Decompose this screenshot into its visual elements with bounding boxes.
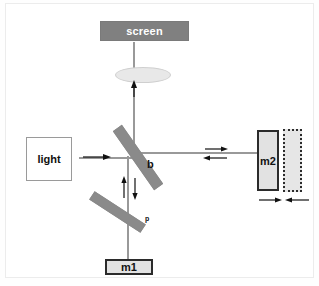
light-source-label: light — [37, 153, 60, 165]
arrow-m2-displacement-right-icon — [284, 195, 310, 205]
mirror-m2-shifted-box — [283, 129, 302, 192]
arrow-m1-to-splitter-icon — [119, 175, 129, 199]
lens-element[interactable] — [115, 67, 171, 83]
mirror-m2-label: m2 — [260, 155, 276, 167]
beam-splitter-to-m1 — [127, 156, 129, 260]
arrow-m2-to-splitter-icon — [202, 154, 228, 164]
arrow-source-to-splitter-icon — [81, 150, 113, 164]
mirror-m1-box[interactable]: m1 — [105, 259, 153, 275]
light-source-box[interactable]: light — [26, 137, 72, 181]
compensator-plate-label: p — [145, 215, 149, 222]
arrow-splitter-to-m2-icon — [204, 143, 230, 153]
screen-label: screen — [126, 25, 163, 37]
beam-splitter-to-m2 — [132, 152, 260, 154]
beam-splitter-label: b — [147, 159, 154, 170]
diagram-canvas: screen light b p m1 m2 — [0, 0, 319, 286]
arrow-splitter-to-lens-icon — [128, 79, 140, 99]
diagram-frame: screen light b p m1 m2 — [5, 3, 314, 278]
screen-box[interactable]: screen — [100, 21, 189, 41]
mirror-m2-box[interactable]: m2 — [257, 130, 279, 191]
arrow-splitter-to-m1-icon — [130, 177, 140, 201]
arrow-m2-displacement-left-icon — [258, 195, 284, 205]
mirror-m1-label: m1 — [121, 261, 137, 273]
